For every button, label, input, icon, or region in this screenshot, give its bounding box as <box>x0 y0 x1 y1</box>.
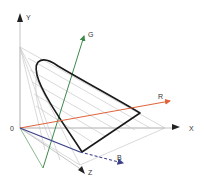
diagram-canvas: Y X Z 0 G R B <box>0 0 204 193</box>
r-vector <box>20 101 170 128</box>
origin-label: 0 <box>10 125 14 132</box>
y-axis-label: Y <box>26 14 31 21</box>
x-axis-arrow-icon <box>172 124 180 130</box>
z-axis-label: Z <box>88 169 93 176</box>
r-vector-label: R <box>158 93 163 100</box>
x-axis-label: X <box>189 125 194 132</box>
g-vector-back <box>20 128 43 168</box>
z-axis-arrow-icon <box>78 166 85 174</box>
y-axis-arrow-icon <box>17 13 23 22</box>
b-vector-label: B <box>117 154 122 161</box>
g-vector-label: G <box>88 31 93 38</box>
